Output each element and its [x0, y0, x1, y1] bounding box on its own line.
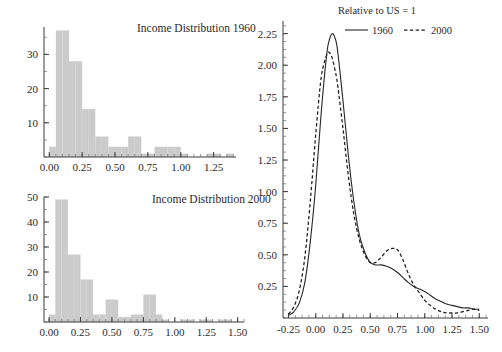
- histogram-bar: [135, 136, 142, 157]
- y-tick-label: 20: [27, 266, 39, 278]
- histogram-bar: [87, 280, 93, 323]
- x-tick-label: 0.25: [71, 326, 91, 338]
- x-tick-label: 0.00: [39, 326, 59, 338]
- y-tick-label: 0.50: [258, 249, 278, 261]
- y-tick-label: 40: [27, 216, 39, 228]
- x-tick-label: 0.75: [388, 323, 408, 335]
- histogram-bar: [62, 30, 69, 157]
- histogram-bar: [128, 136, 135, 157]
- x-tick-label: 1.50: [470, 323, 490, 335]
- histogram-bar: [154, 147, 161, 157]
- x-tick-label: 0.50: [105, 161, 125, 173]
- x-tick-label: 0.75: [138, 161, 158, 173]
- x-tick-label: 0.00: [306, 323, 326, 335]
- panel-relative-income-density: -0.250.000.250.500.751.001.251.500.250.5…: [258, 5, 490, 335]
- histogram-bar: [68, 255, 74, 323]
- y-tick-label: 30: [27, 48, 39, 60]
- histogram-bar: [156, 315, 162, 323]
- y-tick-label: 10: [27, 117, 39, 129]
- bars-2000: [49, 200, 231, 323]
- histogram-bar: [115, 147, 122, 157]
- histogram-bar: [80, 280, 86, 323]
- y-tick-label: 20: [27, 83, 39, 95]
- histogram-bar: [49, 147, 56, 157]
- legend-note: Relative to US = 1: [338, 5, 416, 16]
- x-tick-label: 0.25: [333, 323, 353, 335]
- histogram-bar: [49, 315, 55, 323]
- histogram-bar: [112, 300, 118, 323]
- x-tick-label: 1.25: [442, 323, 462, 335]
- y-tick-label: 1.75: [258, 91, 278, 103]
- histogram-bar: [141, 154, 148, 157]
- histogram-bar: [131, 315, 137, 323]
- figure-container: 0.000.250.500.751.001.25102030 Income Di…: [0, 0, 502, 352]
- histogram-bar: [74, 255, 80, 323]
- density-curve-1960: [288, 34, 479, 316]
- x-tick-label: 1.00: [415, 323, 435, 335]
- y-tick-label: 1.00: [258, 186, 278, 198]
- histogram-bar: [76, 61, 83, 157]
- axes-density: -0.250.000.250.500.751.001.251.500.250.5…: [258, 21, 490, 335]
- histogram-bar: [56, 30, 63, 157]
- x-tick-label: 1.25: [204, 161, 224, 173]
- curves-density: [288, 34, 479, 316]
- panel-income-distribution-2000: 0.000.250.500.751.001.251.501020304050 I…: [27, 191, 271, 338]
- x-tick-label: 1.00: [165, 326, 185, 338]
- histogram-bar: [95, 136, 102, 157]
- histogram-bar: [181, 154, 188, 157]
- x-tick-label: -0.25: [277, 323, 300, 335]
- x-tick-label: 0.50: [102, 326, 122, 338]
- histogram-bar: [82, 109, 89, 157]
- histogram-bar: [118, 317, 124, 322]
- y-tick-label: 0.25: [258, 280, 278, 292]
- x-tick-label: 0.00: [40, 161, 60, 173]
- panel-income-distribution-1960: 0.000.250.500.751.001.25102030 Income Di…: [27, 22, 256, 173]
- x-tick-label: 1.00: [171, 161, 191, 173]
- histogram-bar: [89, 109, 96, 157]
- x-tick-label: 1.50: [228, 326, 248, 338]
- histogram-bar: [69, 61, 76, 157]
- bars-1960: [49, 30, 233, 157]
- histogram-bar: [137, 315, 143, 323]
- histogram-bar: [174, 147, 181, 157]
- histogram-bar: [108, 147, 115, 157]
- legend-label-2000: 2000: [431, 25, 452, 36]
- title-2000: Income Distribution 2000: [152, 193, 271, 205]
- title-1960: Income Distribution 1960: [137, 22, 256, 34]
- y-tick-label: 0.75: [258, 217, 278, 229]
- y-tick-label: 2.25: [258, 28, 278, 40]
- histogram-bar: [99, 315, 105, 323]
- y-tick-label: 50: [27, 191, 39, 203]
- y-tick-label: 30: [27, 241, 39, 253]
- histogram-bar: [55, 200, 61, 323]
- histogram-bar: [161, 147, 168, 157]
- histogram-bar: [143, 295, 149, 323]
- x-tick-label: 0.75: [134, 326, 154, 338]
- histogram-bar: [106, 300, 112, 323]
- legend-density: Relative to US = 1 1960 2000: [338, 5, 452, 36]
- histogram-bar: [125, 317, 131, 322]
- histogram-bar: [122, 147, 129, 157]
- y-tick-label: 1.50: [258, 122, 278, 134]
- histogram-bar: [150, 295, 156, 323]
- histogram-bar: [227, 154, 234, 157]
- x-tick-label: 0.50: [361, 323, 381, 335]
- histogram-bar: [102, 136, 109, 157]
- histogram-bar: [93, 315, 99, 323]
- legend-label-1960: 1960: [372, 25, 393, 36]
- density-curve-2000: [288, 52, 479, 314]
- histogram-bar: [207, 154, 214, 157]
- x-tick-label: 0.25: [73, 161, 93, 173]
- y-tick-label: 10: [27, 291, 39, 303]
- histogram-bar: [62, 200, 68, 323]
- y-tick-label: 2.00: [258, 59, 278, 71]
- histogram-bar: [148, 154, 155, 157]
- y-tick-label: 1.25: [258, 154, 278, 166]
- histogram-bar: [214, 154, 221, 157]
- histogram-bar: [168, 147, 175, 157]
- figure-svg: 0.000.250.500.751.001.25102030 Income Di…: [0, 0, 502, 352]
- x-tick-label: 1.25: [197, 326, 217, 338]
